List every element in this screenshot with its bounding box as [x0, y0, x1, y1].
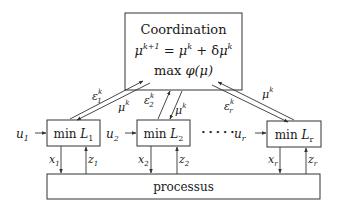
- input-label-r: ur: [234, 127, 247, 143]
- x-label-r: xr: [268, 153, 278, 168]
- process-block: processus: [47, 174, 320, 199]
- mu-label-1: μk: [118, 99, 129, 114]
- coordination-decomposition-diagram: Coordination μk+1 = μk + δμk max φ(μ) mi…: [0, 0, 337, 209]
- z-label-1: z1: [87, 153, 98, 168]
- coordination-block: Coordination μk+1 = μk + δμk max φ(μ): [125, 13, 242, 90]
- eps-arrow-1: [70, 81, 143, 119]
- eps-arrow-2: [158, 91, 170, 119]
- objective: max φ(μ): [154, 63, 213, 78]
- subsystem-label-1: min L1: [54, 127, 94, 143]
- process-label: processus: [153, 180, 214, 194]
- mu-label-r: μk: [262, 86, 273, 101]
- coordination-title: Coordination: [141, 22, 228, 37]
- subsystem-label-2: min L2: [144, 127, 184, 143]
- eps-label-2: εk2: [144, 92, 154, 109]
- eps-label-1: εk1: [92, 88, 102, 105]
- subsystem-1: min L1 u1 x1 z1 εk1 μk: [16, 81, 150, 174]
- x-label-2: x2: [138, 153, 149, 168]
- z-label-r: zr: [307, 153, 318, 168]
- eps-label-r: εkr: [224, 98, 234, 115]
- mu-label-2: μk: [175, 102, 186, 117]
- ellipsis: • • • • •: [201, 128, 235, 137]
- x-label-1: x1: [49, 153, 60, 168]
- subsystem-label-r: min Lr: [275, 128, 314, 144]
- input-label-2: u2: [106, 127, 119, 143]
- input-label-1: u1: [16, 127, 29, 143]
- z-label-2: z2: [178, 153, 190, 168]
- mu-arrow-1: [77, 83, 150, 120]
